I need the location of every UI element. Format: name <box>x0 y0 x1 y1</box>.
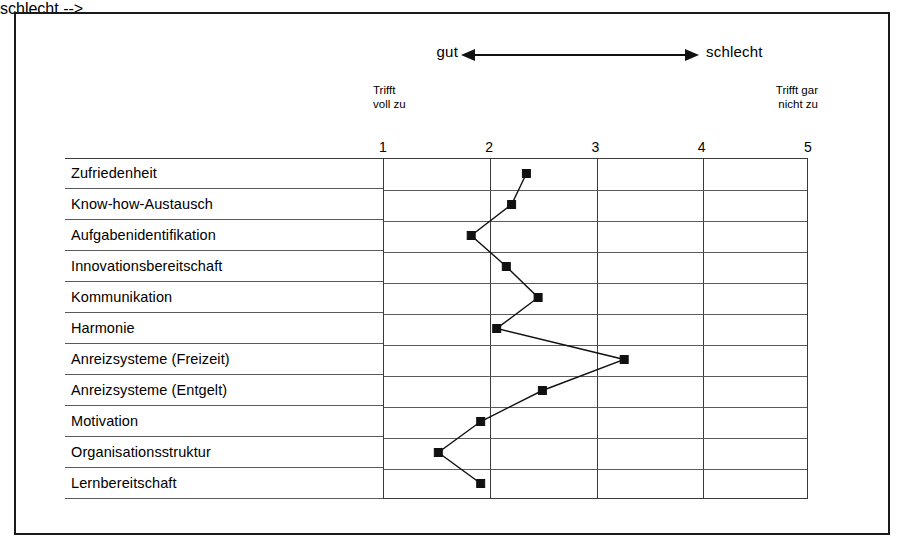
grid-hline <box>384 407 807 408</box>
category-label: Aufgabenidentifikation <box>71 225 216 245</box>
figure-root: schlecht --> gut schlecht Trifft voll zu… <box>0 0 906 551</box>
grid-vline <box>597 159 598 498</box>
category-label: Kommunikation <box>71 287 172 307</box>
category-label: Lernbereitschaft <box>71 473 177 493</box>
category-label: Zufriedenheit <box>71 163 157 183</box>
grid-hline <box>384 376 807 377</box>
scale-anchor-low: Trifft voll zu <box>373 83 406 111</box>
grid-hline <box>384 469 807 470</box>
grid-hline <box>384 345 807 346</box>
grid-hline <box>384 438 807 439</box>
category-row: Innovationsbereitschaft <box>65 251 383 282</box>
category-row: Aufgabenidentifikation <box>65 220 383 251</box>
x-tick-label: 5 <box>796 138 820 156</box>
category-row: Know-how-Austausch <box>65 189 383 220</box>
direction-label-bad: schlecht <box>706 42 763 62</box>
category-label: Innovationsbereitschaft <box>71 256 222 276</box>
category-label: Motivation <box>71 411 138 431</box>
category-label: Anreizsysteme (Freizeit) <box>71 349 230 369</box>
x-tick-label: 4 <box>690 138 714 156</box>
grid-hline <box>384 283 807 284</box>
category-label: Anreizsysteme (Entgelt) <box>71 380 227 400</box>
x-tick-label: 3 <box>584 138 608 156</box>
grid-hline <box>384 190 807 191</box>
category-row: Lernbereitschaft <box>65 468 383 499</box>
row-divider <box>65 498 383 499</box>
category-row: Organisationsstruktur <box>65 437 383 468</box>
grid-vline <box>490 159 491 498</box>
direction-label-good: gut <box>414 42 458 62</box>
category-label: Organisationsstruktur <box>71 442 211 462</box>
double-headed-arrow-icon <box>455 43 705 67</box>
category-label-column: ZufriedenheitKnow-how-AustauschAufgabeni… <box>65 158 383 499</box>
category-row: Motivation <box>65 406 383 437</box>
category-row: Kommunikation <box>65 282 383 313</box>
plot-area <box>383 158 808 499</box>
category-row: Anreizsysteme (Freizeit) <box>65 344 383 375</box>
category-row: Anreizsysteme (Entgelt) <box>65 375 383 406</box>
x-tick-label: 1 <box>371 138 395 156</box>
scale-anchor-high: Trifft gar nicht zu <box>698 83 818 111</box>
category-label: Harmonie <box>71 318 135 338</box>
grid-hline <box>384 252 807 253</box>
x-tick-label: 2 <box>477 138 501 156</box>
grid-hline <box>384 221 807 222</box>
category-label: Know-how-Austausch <box>71 194 213 214</box>
category-row: Zufriedenheit <box>65 158 383 189</box>
grid-vline <box>703 159 704 498</box>
category-row: Harmonie <box>65 313 383 344</box>
row-divider <box>65 158 383 159</box>
grid-hline <box>384 314 807 315</box>
